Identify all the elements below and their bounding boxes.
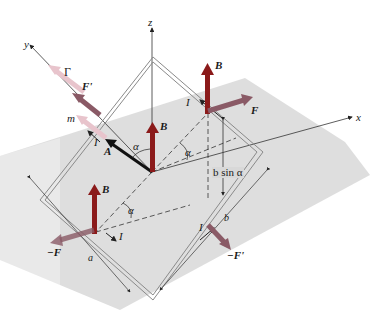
b-label-center: B [160,121,167,132]
area-vector-label: A [104,146,111,157]
torque-label: Γ [64,66,71,78]
force-f-prime-arrow [72,93,100,115]
current-label-bottom-right: I [199,222,203,233]
neg-f-label: −F [47,247,61,258]
f-label: F [251,105,258,116]
z-axis-label: z [148,17,152,28]
dimension-b-label: b [224,213,229,223]
current-label-bottom-left: I [119,231,123,242]
xy-plane-fade [0,138,60,300]
moment-label: m [67,113,75,124]
f-prime-label: F' [82,81,92,92]
b-label-top-right: B [215,60,222,71]
neg-f-prime-label: −F' [227,250,244,261]
x-axis-label: x [356,112,361,123]
alpha-label-center: α [133,141,139,152]
alpha-label-bottom: α [128,205,134,216]
alpha-label-right: α [185,147,191,158]
b-sin-alpha-label: b sin α [212,167,244,178]
current-label-top-right: I [186,97,190,108]
y-axis-label: y [24,39,29,50]
current-label-left: I [94,137,98,148]
dimension-a-label: a [88,253,93,263]
b-label-bottom-left: B [102,184,109,195]
